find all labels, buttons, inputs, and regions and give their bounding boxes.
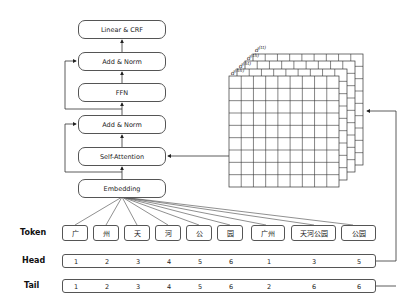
token-box: 公	[186, 225, 212, 241]
head-value: 5	[357, 258, 361, 266]
token-box: 广	[62, 225, 88, 241]
embedding-block: Embedding	[78, 179, 166, 198]
linear-crf-block: Linear & CRF	[78, 20, 166, 39]
tail-value: 6	[357, 283, 361, 291]
tail-value: 4	[167, 283, 171, 291]
tail-value: 2	[105, 283, 109, 291]
token-row-label: Token	[20, 228, 46, 237]
head-value: 5	[198, 258, 202, 266]
head-value: 3	[312, 258, 316, 266]
add-norm-top-block: Add & Norm	[78, 52, 166, 71]
matrix-label-hh: d(hh)	[231, 68, 244, 76]
head-value: 2	[105, 258, 109, 266]
token-box: 天河公园	[291, 225, 336, 241]
head-row-label: Head	[22, 256, 45, 265]
distance-matrices	[229, 54, 363, 187]
token-box: 天	[124, 225, 150, 241]
head-position-bar: 1 2 3 4 5 6 1 3 5	[62, 254, 376, 268]
head-value: 4	[167, 258, 171, 266]
token-box: 河	[155, 225, 181, 241]
tail-value: 6	[229, 283, 233, 291]
add-norm-bottom-block: Add & Norm	[78, 115, 166, 134]
token-box: 公园	[341, 225, 376, 241]
head-value: 1	[267, 258, 271, 266]
matrix-label-tt: d(tt)	[255, 45, 266, 53]
head-value: 6	[229, 258, 233, 266]
self-attention-block: Self-Attention	[78, 147, 166, 166]
token-box: 广州	[251, 225, 285, 241]
matrix-label-th: d(th)	[247, 53, 259, 61]
tail-value: 1	[74, 283, 78, 291]
token-box: 园	[217, 225, 243, 241]
token-box: 州	[93, 225, 119, 241]
tail-position-bar: 1 2 3 4 5 6 2 6 6	[62, 279, 376, 293]
tail-value: 6	[312, 283, 316, 291]
head-value: 3	[136, 258, 140, 266]
head-value: 1	[74, 258, 78, 266]
tail-row-label: Tail	[24, 281, 39, 290]
tail-value: 3	[136, 283, 140, 291]
tail-value: 5	[198, 283, 202, 291]
tail-value: 2	[267, 283, 271, 291]
ffn-block: FFN	[78, 83, 166, 102]
